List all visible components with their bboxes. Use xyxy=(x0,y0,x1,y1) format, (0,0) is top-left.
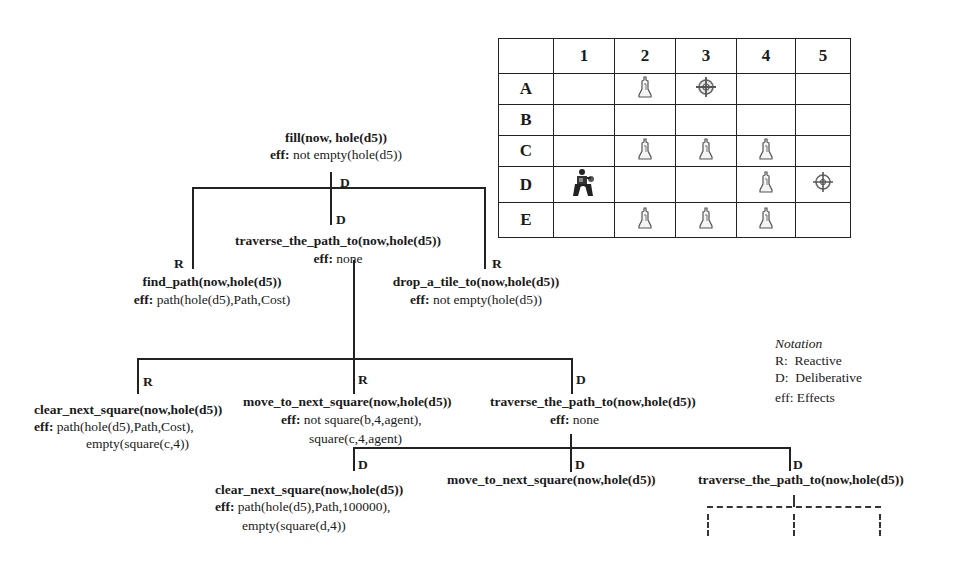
cell-a2 xyxy=(615,74,676,105)
cell-a5 xyxy=(796,74,851,105)
node-title: drop_a_tile_to(now,hole(d5)) xyxy=(378,273,574,290)
cell-b1 xyxy=(554,105,615,136)
node-effects: eff: none xyxy=(215,250,461,267)
cell-e3 xyxy=(676,203,737,238)
cell-d4 xyxy=(737,167,796,203)
node-traverse-path-3: traverse_the_path_to(now,hole(d5)) xyxy=(698,471,904,488)
cell-a4 xyxy=(737,74,796,105)
node-effects: eff: not empty(hole(d5)) xyxy=(378,291,574,308)
node-title: fill(now, hole(d5)) xyxy=(255,129,417,146)
legend-item-effects: eff: Effects xyxy=(775,389,862,406)
legend-item-deliberative: D: Deliberative xyxy=(775,369,862,386)
node-title: clear_next_square(now,hole(d5)) xyxy=(215,481,403,498)
eff-value: not empty(hole(d5)) xyxy=(433,292,542,307)
node-effects: eff: none xyxy=(490,411,696,428)
cell-e1 xyxy=(554,203,615,238)
link-label-deliberative: D xyxy=(793,458,803,472)
node-title: move_to_next_square(now,hole(d5)) xyxy=(447,471,656,488)
cell-e5 xyxy=(796,203,851,238)
cell-d3 xyxy=(676,167,737,203)
node-effects: eff: not square(b,4,agent), xyxy=(243,411,452,428)
cell-a3 xyxy=(676,74,737,105)
col-header: 5 xyxy=(796,39,851,74)
node-effects: eff: path(hole(d5),Path,Cost), xyxy=(34,418,222,435)
eff-label: eff: xyxy=(313,251,332,266)
edge-line xyxy=(192,187,194,269)
cell-d5 xyxy=(796,167,851,203)
tile-icon xyxy=(638,138,652,165)
link-label-reactive: R xyxy=(358,373,368,387)
eff-label: eff: xyxy=(410,292,429,307)
edge-line xyxy=(353,260,355,394)
eff-label: eff: xyxy=(34,419,53,434)
eff-value: path(hole(d5),Path,Cost) xyxy=(157,292,290,307)
node-traverse-path: traverse_the_path_to(now,hole(d5)) eff: … xyxy=(215,232,461,267)
link-label-deliberative: D xyxy=(336,213,346,227)
cell-b2 xyxy=(615,105,676,136)
link-label-deliberative: D xyxy=(575,458,585,472)
eff-value: none xyxy=(336,251,362,266)
eff-label: eff: xyxy=(215,499,234,514)
row-header: B xyxy=(499,105,554,136)
grid-header-row: 1 2 3 4 5 xyxy=(499,39,851,74)
row-header: E xyxy=(499,203,554,238)
target-icon xyxy=(694,75,718,104)
row-header: C xyxy=(499,136,554,167)
tile-icon xyxy=(699,138,713,165)
cell-b5 xyxy=(796,105,851,136)
dashed-edge-line xyxy=(879,514,881,536)
eff-value: path(hole(d5),Path,Cost), xyxy=(57,419,194,434)
node-title: traverse_the_path_to(now,hole(d5)) xyxy=(698,471,904,488)
node-effects: eff: path(hole(d5),Path,100000), xyxy=(215,498,403,515)
node-move-next-square: move_to_next_square(now,hole(d5)) eff: n… xyxy=(243,393,452,447)
node-title: find_path(now,hole(d5)) xyxy=(120,273,304,290)
tileworld-grid: 1 2 3 4 5 A B C D E xyxy=(498,38,851,238)
tile-icon xyxy=(638,76,652,103)
node-effects: eff: path(hole(d5),Path,Cost) xyxy=(120,291,304,308)
edge-line xyxy=(137,358,139,394)
tile-icon xyxy=(699,207,713,234)
eff-label: eff: xyxy=(550,412,569,427)
agent-icon xyxy=(571,167,597,202)
grid-corner xyxy=(499,39,554,74)
tile-icon xyxy=(759,138,773,165)
node-title: traverse_the_path_to(now,hole(d5)) xyxy=(215,232,461,249)
cell-c4 xyxy=(737,136,796,167)
node-find-path: find_path(now,hole(d5)) eff: path(hole(d… xyxy=(120,273,304,308)
link-label-reactive: R xyxy=(143,375,153,389)
notation-legend: Notation R: Reactive D: Deliberative eff… xyxy=(775,335,862,406)
link-label-reactive: R xyxy=(174,257,184,271)
eff-value: not empty(hole(d5)) xyxy=(293,147,402,162)
cell-d1 xyxy=(554,167,615,203)
dashed-edge-line xyxy=(707,514,709,536)
edge-line xyxy=(484,187,486,269)
tile-icon xyxy=(638,207,652,234)
node-title: move_to_next_square(now,hole(d5)) xyxy=(243,393,452,410)
col-header: 3 xyxy=(676,39,737,74)
hole-target-icon xyxy=(811,170,835,199)
node-effects: eff: not empty(hole(d5)) xyxy=(255,146,417,163)
cell-c2 xyxy=(615,136,676,167)
node-title: traverse_the_path_to(now,hole(d5)) xyxy=(490,393,696,410)
edge-line xyxy=(353,447,355,471)
link-label-deliberative: D xyxy=(576,373,586,387)
edge-line xyxy=(137,358,573,360)
grid-row-d: D xyxy=(499,167,851,203)
cell-b4 xyxy=(737,105,796,136)
node-drop-tile: drop_a_tile_to(now,hole(d5)) eff: not em… xyxy=(378,273,574,308)
node-title: clear_next_square(now,hole(d5)) xyxy=(34,401,222,418)
edge-line xyxy=(330,172,332,225)
grid-row-e: E xyxy=(499,203,851,238)
node-clear-next-square-2: clear_next_square(now,hole(d5)) eff: pat… xyxy=(215,481,403,534)
grid-row-a: A xyxy=(499,74,851,105)
eff-value: not square(b,4,agent), xyxy=(304,412,422,427)
node-clear-next-square: clear_next_square(now,hole(d5)) eff: pat… xyxy=(34,401,222,452)
eff-value: path(hole(d5),Path,100000), xyxy=(238,499,391,514)
cell-c5 xyxy=(796,136,851,167)
cell-a1 xyxy=(554,74,615,105)
eff-label: eff: xyxy=(134,292,153,307)
row-header: D xyxy=(499,167,554,203)
tile-icon xyxy=(759,171,773,198)
tile-icon xyxy=(759,207,773,234)
row-header: A xyxy=(499,74,554,105)
